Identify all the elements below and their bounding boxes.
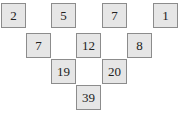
empty-cell [51,33,76,58]
number-cell: 5 [51,3,76,28]
empty-cell [26,3,51,28]
empty-cell [76,59,101,84]
empty-cell [76,3,101,28]
number-cell: 39 [76,85,101,110]
number-cell: 1 [153,3,178,28]
number-cell: 2 [1,3,26,28]
empty-cell [102,33,127,58]
number-cell: 7 [102,3,127,28]
number-cell: 8 [127,33,152,58]
number-cell: 19 [51,59,76,84]
empty-cell [127,3,152,28]
number-cell: 7 [26,33,51,58]
number-cell: 20 [102,59,127,84]
number-cell: 12 [76,33,101,58]
